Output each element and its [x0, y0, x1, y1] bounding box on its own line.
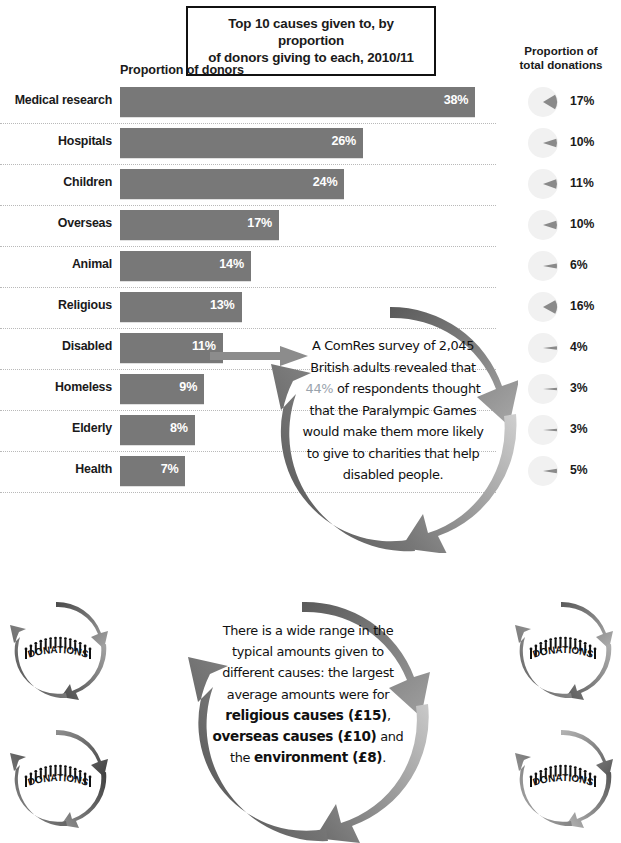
chart-row: Children24%11% [0, 166, 621, 206]
donation-share-value: 3% [570, 422, 588, 436]
bar: 14% [120, 251, 251, 281]
category-label: Religious [0, 298, 112, 312]
donation-share-wedge [528, 292, 558, 322]
bar: 38% [120, 87, 475, 117]
donations-logo-bottom-left: DONATIONS [8, 728, 108, 828]
donations-wordmark: DONATIONS [22, 761, 94, 795]
category-label: Homeless [0, 380, 112, 394]
donation-share-wedge [528, 415, 558, 445]
donation-share-wedge [528, 128, 558, 158]
bar: 11% [120, 333, 223, 363]
donation-share-value: 5% [570, 463, 588, 477]
donation-share-value: 10% [570, 135, 594, 149]
chart-row: Overseas17%10% [0, 207, 621, 247]
category-label: Medical research [0, 93, 112, 107]
bar: 8% [120, 415, 195, 445]
bar: 13% [120, 292, 242, 322]
callout-survey-highlight: 44% [306, 381, 334, 396]
callout-survey-text: A ComRes survey of 2,045 British adults … [296, 335, 490, 486]
callout-amounts-tail: . [382, 750, 386, 765]
bar: 24% [120, 169, 344, 199]
bar-value-label: 38% [444, 93, 469, 107]
callout-amounts-part-1: There is a wide range in the typical amo… [222, 623, 394, 702]
donation-share-value: 16% [570, 299, 594, 313]
column-header-proportion-of-total-donations: Proportion of total donations [505, 44, 617, 72]
donations-wordmark: DONATIONS [527, 761, 599, 795]
donation-share-value: 10% [570, 217, 594, 231]
donation-share-value: 11% [570, 176, 594, 190]
donation-share-wedge [528, 374, 558, 404]
category-label: Disabled [0, 339, 112, 353]
donation-share-wedge [528, 87, 558, 117]
donations-logo-bottom-right: DONATIONS [513, 728, 613, 828]
callout-survey: A ComRes survey of 2,045 British adults … [268, 303, 518, 553]
donations-logo-top-right: DONATIONS [513, 600, 613, 700]
category-label: Children [0, 175, 112, 189]
bar-value-label: 14% [219, 257, 244, 271]
donations-wordmark: DONATIONS [22, 633, 94, 667]
donation-share-wedge [528, 456, 558, 486]
bar: 9% [120, 374, 204, 404]
donation-share-wedge [528, 251, 558, 281]
donation-share-wedge [528, 333, 558, 363]
chart-row: Hospitals26%10% [0, 125, 621, 165]
bar: 17% [120, 210, 279, 240]
bar-value-label: 7% [161, 462, 179, 476]
category-label: Health [0, 462, 112, 476]
category-label: Elderly [0, 421, 112, 435]
donation-share-wedge [528, 169, 558, 199]
category-label: Overseas [0, 216, 112, 230]
category-label: Hospitals [0, 134, 112, 148]
callout-amounts-text: There is a wide range in the typical amo… [207, 620, 409, 768]
bar-value-label: 26% [331, 134, 356, 148]
callout-amounts-bold-overseas: overseas causes (£10) [213, 728, 377, 744]
donations-logo-top-left: DONATIONS [8, 600, 108, 700]
bar-value-label: 8% [170, 421, 188, 435]
donation-share-value: 3% [570, 381, 588, 395]
bar-value-label: 24% [313, 175, 338, 189]
bar: 7% [120, 456, 185, 486]
column-header-proportion-of-donors: Proportion of donors [120, 63, 244, 77]
category-label: Animal [0, 257, 112, 271]
donations-wordmark: DONATIONS [527, 633, 599, 667]
callout-amounts-bold-religious: religious causes (£15) [225, 707, 387, 723]
column-header-total-line-1: Proportion of [505, 44, 617, 58]
donation-share-value: 6% [570, 258, 588, 272]
bar: 26% [120, 128, 363, 158]
bar-value-label: 9% [179, 380, 197, 394]
callout-amounts-mid-1: , [387, 708, 391, 723]
callout-amounts-bold-environment: environment (£8) [254, 749, 382, 765]
column-header-total-line-2: total donations [505, 58, 617, 72]
bar-value-label: 17% [247, 216, 272, 230]
chart-title-line-1: Top 10 causes given to, by proportion [196, 15, 426, 49]
callout-survey-suffix: of respondents thought that the Paralymp… [302, 381, 483, 482]
callout-amounts: There is a wide range in the typical amo… [183, 598, 433, 843]
donation-share-value: 17% [570, 94, 594, 108]
chart-row: Medical research38%17% [0, 84, 621, 124]
donation-share-wedge [528, 210, 558, 240]
bar-value-label: 13% [210, 298, 235, 312]
chart-row: Animal14%6% [0, 248, 621, 288]
donation-share-value: 4% [570, 340, 588, 354]
callout-survey-prefix: A ComRes survey of 2,045 British adults … [310, 338, 476, 375]
